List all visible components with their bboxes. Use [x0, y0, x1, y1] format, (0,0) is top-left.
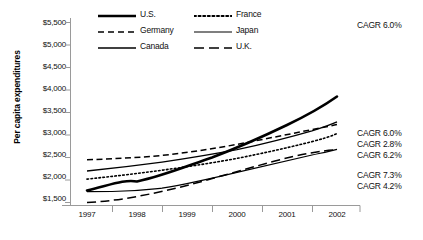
- legend-swatch-solid-thin-japan: [194, 29, 232, 35]
- annotation-cagr-uk: CAGR 4.2%: [357, 181, 402, 191]
- legend-label-us: U.S.: [140, 9, 156, 19]
- legend-label-canada: Canada: [140, 41, 169, 51]
- legend-swatch-dashed: [98, 29, 136, 35]
- legend-swatch-solid-thin-canada: [98, 45, 136, 51]
- legend-swatch-solid-thick: [98, 13, 136, 19]
- annotation-cagr-france: CAGR 6.2%: [357, 150, 402, 160]
- legend: U.S. France Germany Japan Canada: [98, 8, 278, 56]
- annotation-cagr-japan: CAGR 7.3%: [357, 170, 402, 180]
- legend-label-germany: Germany: [140, 25, 174, 35]
- annotation-cagr-us: CAGR 6.0%: [357, 20, 402, 30]
- legend-swatch-dotted: [194, 13, 232, 19]
- series-line-us: [87, 97, 337, 191]
- x-axis-ticks: [113, 206, 361, 213]
- legend-label-japan: Japan: [236, 25, 258, 35]
- annotation-cagr-canada: CAGR 6.0%: [357, 128, 402, 138]
- annotation-cagr-germany: CAGR 2.8%: [357, 139, 402, 149]
- legend-label-france: France: [236, 9, 261, 19]
- legend-label-uk: U.K.: [236, 41, 252, 51]
- series-line-canada: [87, 122, 337, 171]
- line-chart: Per capita expenditures $5,500 $5,000 $4…: [0, 0, 423, 240]
- y-axis-ticks: [65, 23, 71, 203]
- legend-swatch-long-dashed: [194, 45, 232, 51]
